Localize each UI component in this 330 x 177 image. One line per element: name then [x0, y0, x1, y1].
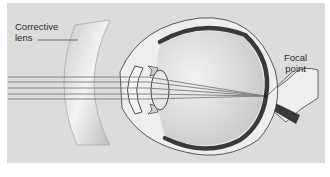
eyeball-icon [120, 18, 278, 155]
label-line: lens [15, 33, 58, 44]
label-line: point [284, 64, 307, 75]
label-line: Corrective [15, 22, 58, 33]
label-line: Focal [284, 53, 307, 64]
focal-point-label: Focal point [284, 53, 307, 74]
focal-point-icon [264, 95, 267, 98]
corrective-lens-icon [64, 20, 110, 145]
corrective-lens-label: Corrective lens [15, 22, 58, 43]
crystalline-lens-icon [151, 70, 169, 110]
